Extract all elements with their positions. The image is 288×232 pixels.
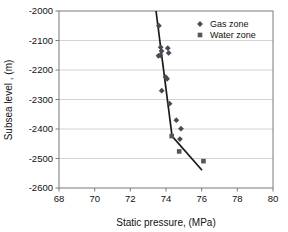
y-tick-label: -2200	[29, 64, 53, 75]
y-tick-label: -2000	[29, 5, 53, 16]
data-point-square	[169, 134, 174, 139]
data-point-diamond	[178, 126, 184, 132]
chart-container: 68707274767880-2000-2100-2200-2300-2400-…	[0, 0, 288, 232]
y-tick-label: -2500	[29, 153, 53, 164]
y-tick-label: -2600	[29, 182, 53, 193]
data-point-diamond	[166, 50, 172, 56]
y-tick-label: -2400	[29, 123, 53, 134]
legend: Gas zoneWater zone	[197, 19, 256, 40]
legend-marker-diamond	[197, 21, 203, 27]
y-axis-title: Subsea level , (m)	[3, 60, 14, 141]
y-tick-label: -2100	[29, 35, 53, 46]
water-gradient-line	[172, 136, 202, 170]
data-point-diamond	[177, 136, 183, 142]
x-tick-label: 74	[161, 193, 172, 204]
x-tick-label: 72	[125, 193, 136, 204]
y-tick-label: -2300	[29, 94, 53, 105]
legend-label-gas-zone: Gas zone	[210, 19, 249, 29]
x-tick-label: 70	[89, 193, 100, 204]
data-point-square	[177, 149, 182, 154]
x-tick-label: 78	[232, 193, 243, 204]
legend-label-water-zone: Water zone	[210, 30, 256, 40]
data-point-diamond	[173, 117, 179, 123]
x-tick-label: 68	[54, 193, 65, 204]
x-tick-label: 80	[268, 193, 279, 204]
gas-gradient-line	[156, 11, 172, 136]
chart-svg: 68707274767880-2000-2100-2200-2300-2400-…	[0, 0, 288, 232]
x-tick-label: 76	[196, 193, 207, 204]
x-axis-title: Static pressure, (MPa)	[116, 217, 215, 228]
data-point-diamond	[165, 45, 171, 51]
data-point-diamond	[159, 88, 165, 94]
data-point-layer	[156, 23, 206, 164]
grid-layer	[59, 41, 273, 159]
legend-marker-square	[198, 33, 203, 38]
data-point-square	[201, 159, 206, 164]
